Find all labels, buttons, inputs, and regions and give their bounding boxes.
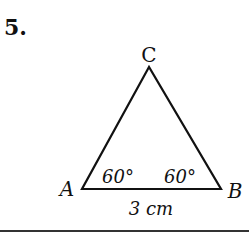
vertex-label-b: B xyxy=(227,179,243,203)
side-ab-length: 3 cm xyxy=(129,198,173,219)
vertex-label-a: A xyxy=(58,177,74,201)
triangle-diagram: C A B 60° 60° 3 cm xyxy=(0,0,249,234)
angle-b-label: 60° xyxy=(164,166,196,187)
vertex-label-c: C xyxy=(141,43,156,67)
angle-a-label: 60° xyxy=(102,166,134,187)
